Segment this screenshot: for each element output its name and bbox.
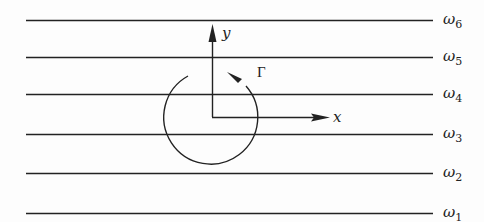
circulation-label: Γ	[257, 64, 266, 80]
layer-label-subscript: 5	[455, 55, 462, 68]
layer-label-omega-5: ω5	[443, 47, 462, 68]
circulation-arrowhead-icon	[227, 72, 242, 83]
y-axis-arrowhead-icon	[209, 24, 217, 42]
layer-label-subscript: 4	[455, 92, 462, 105]
layer-label-omega-6: ω6	[443, 10, 462, 31]
circulation-loop	[164, 76, 258, 164]
vorticity-layers-diagram: y x Γ ω6ω5ω4ω3ω2ω1	[0, 0, 484, 222]
diagram-svg: y x Γ ω6ω5ω4ω3ω2ω1	[0, 0, 484, 222]
layer-label-subscript: 2	[455, 171, 462, 184]
layer-label-subscript: 6	[455, 18, 462, 31]
layer-label-omega-3: ω3	[443, 124, 462, 145]
layer-label-subscript: 1	[455, 211, 462, 222]
layer-label-omega-2: ω2	[443, 163, 462, 184]
y-axis-label: y	[221, 24, 231, 42]
layer-labels: ω6ω5ω4ω3ω2ω1	[443, 10, 462, 222]
layer-label-omega-4: ω4	[443, 84, 462, 105]
x-axis-label: x	[333, 108, 342, 126]
layer-label-omega-1: ω1	[443, 203, 462, 222]
layer-label-subscript: 3	[455, 132, 462, 145]
